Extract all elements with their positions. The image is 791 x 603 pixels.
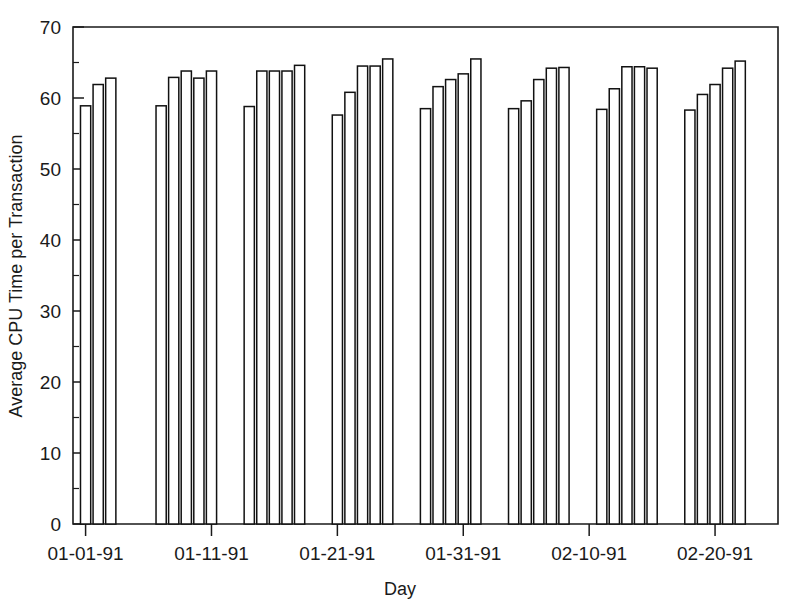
bar <box>433 87 443 524</box>
y-tick-label: 50 <box>40 159 61 180</box>
bar <box>559 67 569 524</box>
y-tick-label: 40 <box>40 230 61 251</box>
bar <box>295 65 305 524</box>
bar <box>735 61 745 524</box>
x-tick-label: 01-21-91 <box>299 543 375 564</box>
y-tick-label: 10 <box>40 443 61 464</box>
bar <box>156 106 166 524</box>
bar <box>345 92 355 524</box>
bar <box>634 67 644 524</box>
x-tick-label: 02-10-91 <box>551 543 627 564</box>
bar <box>244 107 254 524</box>
bar <box>370 66 380 524</box>
bar <box>282 71 292 524</box>
bar <box>697 94 707 524</box>
y-tick-label: 30 <box>40 301 61 322</box>
bar <box>194 78 204 524</box>
bar <box>546 68 556 524</box>
cpu-time-bar-chart: 010203040506070 01-01-9101-11-9101-21-91… <box>0 0 791 603</box>
bar <box>332 115 342 524</box>
y-tick-label: 70 <box>40 17 61 38</box>
y-axis-tick-labels: 010203040506070 <box>40 17 61 535</box>
bar <box>357 66 367 524</box>
x-tick-label: 01-31-91 <box>425 543 501 564</box>
y-tick-label: 20 <box>40 372 61 393</box>
x-axis-ticks <box>86 524 715 536</box>
bar <box>206 71 216 524</box>
bar <box>710 85 720 524</box>
bar <box>181 71 191 524</box>
bar <box>609 89 619 524</box>
bar <box>93 85 103 524</box>
x-tick-label: 01-11-91 <box>174 543 249 564</box>
bar <box>257 71 267 524</box>
x-axis-tick-labels: 01-01-9101-11-9101-21-9101-31-9102-10-91… <box>48 543 754 564</box>
bar-series <box>80 59 745 524</box>
bar <box>383 59 393 524</box>
bar <box>446 80 456 524</box>
bar <box>509 109 519 524</box>
y-axis-title: Average CPU Time per Transaction <box>6 135 26 418</box>
bar <box>269 71 279 524</box>
bar <box>106 78 116 524</box>
bar <box>420 109 430 524</box>
x-tick-label: 01-01-91 <box>48 543 124 564</box>
bar <box>622 67 632 524</box>
bar <box>458 74 468 524</box>
x-tick-label: 02-20-91 <box>677 543 753 564</box>
bar <box>597 109 607 524</box>
bar <box>647 68 657 524</box>
bar <box>534 80 544 524</box>
bar <box>685 110 695 524</box>
bar <box>723 68 733 524</box>
chart-screenshot: 010203040506070 01-01-9101-11-9101-21-91… <box>0 0 791 603</box>
bar <box>521 101 531 524</box>
bar <box>80 106 90 524</box>
bar <box>471 59 481 524</box>
y-tick-label: 0 <box>50 514 61 535</box>
y-tick-label: 60 <box>40 88 61 109</box>
x-axis-title: Day <box>384 579 416 599</box>
bar <box>169 77 179 524</box>
